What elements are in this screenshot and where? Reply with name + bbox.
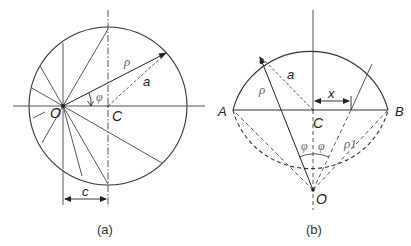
figure-b: A B C O a ρ x φ φ ρ1 (b)	[217, 10, 404, 237]
label-c-a: c	[82, 184, 89, 199]
radius-a-dashed	[108, 55, 164, 106]
figure-a: O C ρ a φ c (a)	[13, 10, 205, 237]
label-origin-a: O	[50, 105, 61, 121]
radius-a-b-dashed	[262, 58, 313, 110]
label-a-point: A	[217, 104, 227, 119]
center-point-b	[312, 109, 314, 111]
caption-a: (a)	[97, 222, 113, 237]
label-phi-a: φ	[96, 90, 103, 104]
label-center-b: C	[313, 115, 324, 131]
label-rho-b: ρ	[258, 82, 265, 97]
label-origin-b: O	[316, 191, 327, 207]
label-center-a: C	[112, 108, 123, 124]
center-point-a	[107, 105, 109, 107]
angle-arc-phi-b	[299, 154, 329, 157]
label-a-a: a	[143, 74, 150, 89]
diagram-canvas: O C ρ a φ c (a)	[0, 0, 411, 246]
label-rho1-b: ρ1	[343, 136, 357, 151]
label-phi-left-b: φ	[301, 139, 308, 153]
origin-point-a	[61, 104, 65, 108]
lower-arc-b-dashed	[233, 110, 388, 169]
label-b-point: B	[395, 104, 404, 119]
label-rho-a: ρ	[123, 54, 130, 69]
caption-b: (b)	[306, 222, 322, 237]
label-a-radius-b: a	[287, 67, 294, 82]
chord-right-b	[351, 64, 372, 110]
label-phi-right-b: φ	[318, 139, 325, 153]
origin-point-b	[311, 188, 315, 192]
label-x-b: x	[327, 86, 335, 101]
